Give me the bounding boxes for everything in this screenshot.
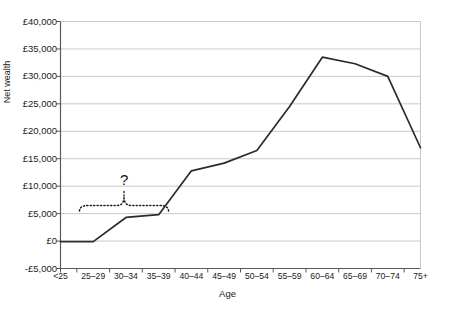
y-axis-tick-label-text: £5,000: [0, 209, 57, 219]
x-axis-tick-label-text: 45–49: [208, 270, 241, 282]
y-axis-tick-label: £10,000: [0, 181, 57, 191]
y-axis-tick-label: £20,000: [0, 126, 57, 136]
x-axis-tick-label: 45–49: [208, 270, 241, 282]
y-axis-tick-label: £0: [0, 236, 57, 246]
x-axis-tick-label: 35–39: [142, 270, 175, 282]
plot-frame: [61, 22, 421, 269]
y-axis-tick-label-text: £40,000: [0, 17, 57, 27]
y-axis-tick-label-text: £10,000: [0, 181, 57, 191]
plot-area: [0, 0, 455, 312]
y-axis-tick-label-text: £35,000: [0, 44, 57, 54]
x-axis-tick-label-text: 30–34: [110, 270, 143, 282]
y-axis-tick-label: £40,000: [0, 17, 57, 27]
x-axis-tick-label-text: <25: [44, 270, 77, 282]
y-axis-tick-label-text: £30,000: [0, 71, 57, 81]
dotted-brace-annotation: [80, 190, 169, 212]
x-axis-tick-label-text: 55–59: [273, 270, 306, 282]
x-axis-tick-label: 55–59: [273, 270, 306, 282]
gridlines: [61, 22, 421, 242]
x-axis-tick-label: 30–34: [110, 270, 143, 282]
x-axis-tick-label: <25: [44, 270, 77, 282]
x-axis-tick-label-text: 40–44: [175, 270, 208, 282]
y-axis-tick-label: £5,000: [0, 209, 57, 219]
x-axis-tick-label-text: 70–74: [371, 270, 404, 282]
y-axis-tick-label: £25,000: [0, 99, 57, 109]
y-axis-tick-label-text: £25,000: [0, 99, 57, 109]
x-axis-tick-label: 50–54: [241, 270, 274, 282]
x-axis-tick-label: 65–69: [339, 270, 372, 282]
question-mark-annotation: ?: [120, 172, 128, 187]
y-axis-tick-label: £30,000: [0, 71, 57, 81]
chart-container: Net wealth £40,000£35,000£30,000£25,000£…: [0, 0, 455, 312]
x-axis-tick-label: 25–29: [77, 270, 110, 282]
x-axis-title: Age: [0, 288, 455, 299]
x-axis-tick-label: 60–64: [306, 270, 339, 282]
y-axis-tick-label-text: £0: [0, 236, 57, 246]
x-axis-tick-label: 70–74: [371, 270, 404, 282]
x-axis-tick-label-text: 75+: [404, 270, 437, 282]
x-axis-tick-label-text: 60–64: [306, 270, 339, 282]
x-axis-tick-label-text: 25–29: [77, 270, 110, 282]
x-axis-tick-label-text: 65–69: [339, 270, 372, 282]
brace-curve: [80, 197, 169, 212]
y-axis-tick-label-text: £20,000: [0, 126, 57, 136]
x-axis-tick-label-text: 50–54: [241, 270, 274, 282]
x-axis-tick-label: 75+: [404, 270, 437, 282]
x-axis-tick-label: 40–44: [175, 270, 208, 282]
y-axis-tick-label: £35,000: [0, 44, 57, 54]
y-axis-tick-label-text: £15,000: [0, 154, 57, 164]
x-axis-tick-label-text: 35–39: [142, 270, 175, 282]
y-axis-tick-label: £15,000: [0, 154, 57, 164]
